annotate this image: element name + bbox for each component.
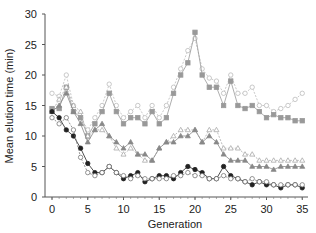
x-tick-label: 5 [85, 203, 91, 215]
x-tick-label: 20 [189, 203, 201, 215]
series-2 [50, 85, 305, 163]
x-tick-label: 30 [260, 203, 272, 215]
y-tick-label: 10 [25, 130, 37, 142]
series-5 [50, 116, 305, 188]
y-tick-label: 0 [31, 191, 37, 203]
y-tick-label: 25 [25, 39, 37, 51]
x-tick-label: 25 [225, 203, 237, 215]
x-tick-label: 15 [153, 203, 165, 215]
x-tick-label: 0 [49, 203, 55, 215]
y-tick-label: 30 [25, 8, 37, 20]
y-axis-title: Mean elution time (min) [3, 49, 15, 164]
x-tick-label: 35 [296, 203, 308, 215]
y-tick-label: 20 [25, 69, 37, 81]
series-4 [50, 109, 305, 190]
chart: 05101520253005101520253035 Generation Me… [0, 0, 316, 233]
y-tick-label: 5 [31, 161, 37, 173]
y-tick-label: 15 [25, 100, 37, 112]
series-1 [50, 30, 305, 138]
x-axis-title: Generation [148, 218, 202, 230]
series-layer [50, 30, 305, 190]
x-tick-label: 10 [117, 203, 129, 215]
